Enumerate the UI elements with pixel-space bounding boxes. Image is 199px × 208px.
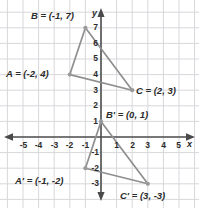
x-tick-1: 1 — [110, 141, 123, 150]
y-tick-7: 7 — [88, 23, 98, 32]
y-tick-4: 4 — [88, 70, 98, 79]
vertex-label-a-prime: A' = (-1, -2) — [15, 176, 63, 186]
vertex-label-a: A = (-2, 4) — [6, 69, 49, 79]
vertex-label-c: C = (2, 3) — [136, 86, 176, 96]
y-axis-label: y — [92, 9, 97, 18]
vertex-label-c-prime: C' = (3, -3) — [120, 191, 165, 201]
vertex-label-b: B = (-1, 7) — [31, 11, 74, 21]
y-tick-minus2: -2 — [86, 164, 99, 173]
x-tick-4: 4 — [157, 141, 170, 150]
y-tick-3: 3 — [88, 86, 98, 95]
x-tick-3: 3 — [141, 141, 154, 150]
coordinate-plane-figure: B = (-1, 7) A = (-2, 4) C = (2, 3) B' = … — [0, 0, 199, 208]
y-tick-5: 5 — [88, 54, 98, 63]
y-tick-minus1: -1 — [86, 148, 99, 157]
x-tick-2: 2 — [126, 141, 139, 150]
y-tick-1: 1 — [88, 117, 98, 126]
x-axis-label: x — [187, 140, 192, 149]
x-axis — [4, 133, 195, 141]
y-tick-6: 6 — [88, 39, 98, 48]
x-tick-5: 5 — [172, 141, 185, 150]
y-tick-2: 2 — [88, 101, 98, 110]
vertex-label-b-prime: B' = (0, 1) — [106, 110, 148, 120]
y-tick-minus3: -3 — [86, 179, 99, 188]
